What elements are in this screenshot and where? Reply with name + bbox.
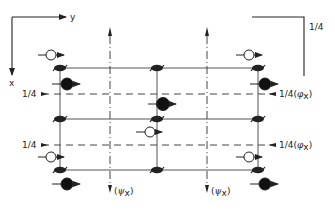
- left-label-1: 1/4: [22, 89, 37, 99]
- filled-atom-4: [52, 178, 80, 190]
- open-atom-1: [38, 50, 64, 60]
- left-label-2: 1/4: [22, 140, 37, 150]
- right-label-1: 1/4(φx): [279, 89, 312, 101]
- filled-atom-3: [148, 98, 176, 111]
- right-label-2: 1/4(φx): [279, 140, 312, 152]
- x-axis-label: x: [9, 78, 15, 88]
- dash-dot-glide-planes: (ψx) (ψx): [108, 27, 230, 198]
- filled-atom-5: [250, 178, 278, 190]
- y-axis-label: y: [70, 12, 76, 22]
- filled-atom-2: [250, 78, 278, 90]
- filled-circle-atoms: [52, 78, 278, 190]
- symmetry-diagram: y x 1/4 1/4 1/4 1/4(φx) 1/4(φx): [0, 0, 335, 211]
- corner-label: 1/4: [309, 22, 324, 32]
- axes: y x: [9, 12, 76, 88]
- open-atom-2: [236, 50, 262, 60]
- open-atom-3: [136, 127, 162, 137]
- filled-atom-1: [52, 78, 80, 90]
- bottom-label-2: (ψx): [211, 186, 230, 198]
- bottom-label-1: (ψx): [114, 186, 133, 198]
